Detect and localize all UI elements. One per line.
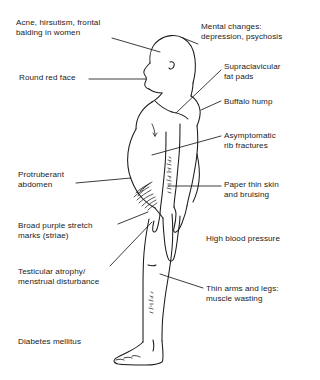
- arm-inner-outline: [174, 124, 180, 207]
- neck-front: [152, 93, 162, 102]
- striae-marks: [134, 182, 157, 210]
- neck-back: [191, 83, 193, 96]
- jaw-line: [149, 89, 162, 93]
- label-high-blood-pressure: High blood pressure: [206, 234, 316, 244]
- leader-acne-hirsutism: [112, 38, 160, 52]
- label-acne-hirsutism: Acne, hirsutism, frontal balding in wome…: [16, 18, 156, 38]
- label-round-red-face: Round red face: [19, 73, 129, 83]
- chest-front-outline: [136, 102, 152, 129]
- label-paper-thin-skin: Paper thin skin and bruising: [224, 180, 319, 200]
- label-testicular-atrophy: Testicular atrophy/ menstrual disturbanc…: [18, 267, 138, 287]
- supraclavicular-fat-pad-crease: [155, 101, 172, 112]
- knee-crease: [148, 265, 156, 266]
- leader-buffalo-hump: [201, 101, 221, 110]
- diagram-canvas: Acne, hirsutism, frontal balding in wome…: [0, 0, 320, 380]
- shoulder-line: [172, 112, 188, 119]
- label-broad-purple-stretch-marks: Broad purple stretch marks (striae): [18, 221, 128, 241]
- label-mental-changes: Mental changes: depression, psychosis: [201, 22, 320, 42]
- near-leg-front-outline: [143, 219, 149, 342]
- head-outline: [150, 36, 196, 83]
- bruising-marks: [167, 157, 171, 193]
- face-profile: [144, 63, 150, 89]
- far-hand-outline: [153, 215, 160, 232]
- rib-fracture-mark: [152, 124, 157, 136]
- groin-line: [155, 208, 163, 218]
- label-thin-arms-and-legs: Thin arms and legs: muscle wasting: [206, 284, 316, 304]
- ear-icon: [169, 62, 174, 69]
- leader-supraclavicular: [176, 70, 221, 113]
- label-supraclavicular-fat-pads: Supraclavicular fat pads: [224, 62, 319, 82]
- buffalo-hump-outline: [191, 96, 200, 126]
- far-arm-outline: [160, 132, 166, 215]
- label-protruberant-abdomen: Protruberant abdomen: [18, 170, 118, 190]
- leader-asymptomatic-ribs: [152, 136, 221, 155]
- leg-bruising-marks: [149, 292, 153, 313]
- label-diabetes-mellitus: Diabetes mellitus: [18, 337, 128, 347]
- leader-mental-changes: [183, 38, 198, 44]
- ankle-crease: [153, 340, 154, 351]
- label-buffalo-hump: Buffalo hump: [224, 97, 319, 107]
- label-asymptomatic-rib-fractures: Asymptomatic rib fractures: [224, 131, 319, 151]
